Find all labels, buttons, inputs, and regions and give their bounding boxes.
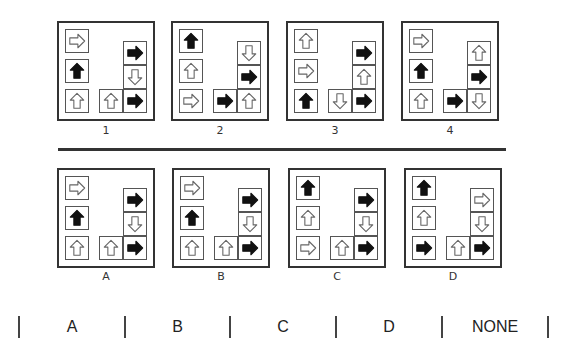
arrow-cell xyxy=(294,29,318,53)
arrow-down-outline-icon xyxy=(241,215,259,233)
arrow-cell xyxy=(412,176,436,200)
answer-button-d[interactable]: D xyxy=(337,316,441,338)
arrow-cell xyxy=(352,89,376,113)
arrow-up-outline-icon xyxy=(240,92,258,110)
arrow-up-filled-icon xyxy=(68,62,86,80)
arrow-cell xyxy=(296,176,320,200)
answer-button-none[interactable]: NONE xyxy=(443,316,547,338)
arrow-up-outline-icon xyxy=(415,209,433,227)
question-label-4: 4 xyxy=(401,124,499,137)
section-divider xyxy=(58,148,506,151)
arrow-down-outline-icon xyxy=(470,92,488,110)
arrow-cell xyxy=(296,206,320,230)
arrow-up-outline-icon xyxy=(470,44,488,62)
arrow-right-outline-icon xyxy=(182,92,200,110)
arrow-down-outline-icon xyxy=(331,92,349,110)
arrow-right-filled-icon xyxy=(126,239,144,257)
arrow-cell xyxy=(179,89,203,113)
arrow-right-filled-icon xyxy=(470,68,488,86)
arrow-up-outline-icon xyxy=(355,68,373,86)
option-panel-b xyxy=(172,168,270,268)
answer-button-c[interactable]: C xyxy=(231,316,335,338)
arrow-cell xyxy=(179,29,203,53)
arrow-down-outline-icon xyxy=(126,68,144,86)
arrow-up-outline-icon xyxy=(449,239,467,257)
option-label-a: A xyxy=(57,270,155,283)
arrow-cell xyxy=(328,89,352,113)
arrow-right-outline-icon xyxy=(297,62,315,80)
arrow-cell xyxy=(180,236,204,260)
arrow-right-outline-icon xyxy=(473,191,491,209)
question-label-1: 1 xyxy=(57,124,155,137)
arrow-cell xyxy=(99,89,123,113)
arrow-cell xyxy=(354,212,378,236)
arrow-up-filled-icon xyxy=(412,62,430,80)
arrow-down-outline-icon xyxy=(357,215,375,233)
arrow-cell xyxy=(179,59,203,83)
arrow-right-filled-icon xyxy=(241,239,259,257)
arrow-right-outline-icon xyxy=(412,32,430,50)
arrow-right-filled-icon xyxy=(357,239,375,257)
arrow-up-outline-icon xyxy=(299,209,317,227)
arrow-cell xyxy=(354,236,378,260)
arrow-down-outline-icon xyxy=(240,44,258,62)
arrow-up-filled-icon xyxy=(297,92,315,110)
arrow-up-outline-icon xyxy=(68,92,86,110)
option-panel-c xyxy=(288,168,386,268)
arrow-right-filled-icon xyxy=(473,239,491,257)
arrow-cell xyxy=(294,89,318,113)
arrow-right-filled-icon xyxy=(241,191,259,209)
arrow-cell xyxy=(65,59,89,83)
answer-separator xyxy=(547,316,549,338)
arrow-cell xyxy=(65,29,89,53)
arrow-cell xyxy=(180,176,204,200)
arrow-cell xyxy=(123,65,147,89)
answer-button-a[interactable]: A xyxy=(20,316,124,338)
arrow-right-outline-icon xyxy=(299,239,317,257)
arrow-cell xyxy=(467,65,491,89)
arrow-right-filled-icon xyxy=(355,92,373,110)
arrow-cell xyxy=(99,236,123,260)
arrow-up-outline-icon xyxy=(68,239,86,257)
arrow-cell xyxy=(180,206,204,230)
question-panel-2 xyxy=(171,21,269,121)
arrow-cell xyxy=(213,89,237,113)
arrow-down-outline-icon xyxy=(126,215,144,233)
arrow-up-outline-icon xyxy=(102,239,120,257)
arrow-up-outline-icon xyxy=(333,239,351,257)
arrow-cell xyxy=(123,89,147,113)
option-label-b: B xyxy=(172,270,270,283)
arrow-right-filled-icon xyxy=(415,239,433,257)
arrow-right-filled-icon xyxy=(355,44,373,62)
arrow-up-outline-icon xyxy=(102,92,120,110)
arrow-up-filled-icon xyxy=(183,209,201,227)
arrow-right-outline-icon xyxy=(68,179,86,197)
question-label-2: 2 xyxy=(171,124,269,137)
arrow-down-outline-icon xyxy=(473,215,491,233)
arrow-cell xyxy=(65,89,89,113)
arrow-cell xyxy=(238,212,262,236)
arrow-up-outline-icon xyxy=(297,32,315,50)
arrow-right-filled-icon xyxy=(357,191,375,209)
arrow-cell xyxy=(65,206,89,230)
arrow-up-outline-icon xyxy=(412,92,430,110)
arrow-cell xyxy=(470,236,494,260)
arrow-right-filled-icon xyxy=(126,191,144,209)
arrow-up-filled-icon xyxy=(299,179,317,197)
answer-button-b[interactable]: B xyxy=(126,316,229,338)
arrow-right-filled-icon xyxy=(126,44,144,62)
arrow-up-filled-icon xyxy=(182,32,200,50)
arrow-cell xyxy=(123,212,147,236)
option-label-d: D xyxy=(404,270,502,283)
question-label-3: 3 xyxy=(286,124,384,137)
arrow-cell xyxy=(237,65,261,89)
arrow-up-outline-icon xyxy=(182,62,200,80)
arrow-cell xyxy=(470,188,494,212)
question-panel-4 xyxy=(401,21,499,121)
arrow-right-filled-icon xyxy=(446,92,464,110)
arrow-cell xyxy=(412,236,436,260)
option-panel-a xyxy=(57,168,155,268)
arrow-cell xyxy=(330,236,354,260)
option-panel-d xyxy=(404,168,502,268)
answer-bar: A B C D NONE xyxy=(0,312,565,342)
